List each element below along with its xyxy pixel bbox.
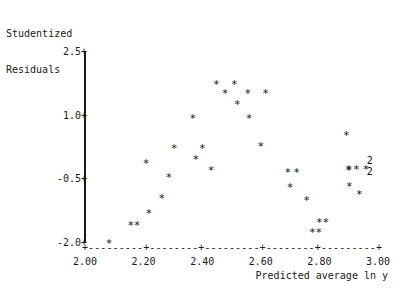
data-point: * — [165, 172, 172, 183]
x-axis-title: Predicted average ln y — [228, 270, 388, 281]
data-point: * — [287, 182, 294, 193]
y-axis-title-line-2: Residuals — [6, 64, 72, 76]
data-point: * — [134, 220, 141, 231]
data-point: * — [293, 167, 300, 178]
data-point: * — [189, 113, 196, 124]
data-point: * — [171, 143, 178, 154]
data-point: * — [142, 158, 149, 169]
x-tick-label: 3.00 — [353, 257, 403, 267]
y-tick-label: -0.5+ — [33, 174, 87, 184]
data-point: * — [356, 189, 363, 200]
data-point: * — [284, 167, 291, 178]
data-point: * — [231, 79, 238, 90]
data-point: * — [246, 113, 253, 124]
data-point-overplot: 2 — [366, 166, 373, 177]
data-point: * — [234, 99, 241, 110]
x-tick-label: 2.60 — [236, 257, 286, 267]
data-point-overplot: 2 — [366, 155, 373, 166]
data-point: * — [199, 143, 206, 154]
data-point: * — [353, 164, 360, 175]
x-tick-label: 2.00 — [60, 257, 110, 267]
data-point: * — [222, 88, 229, 99]
data-point: * — [343, 130, 350, 141]
residual-scatter-plot: Studentized Residuals 2.5+1.0+-0.5+-2.0+… — [0, 0, 417, 300]
y-tick-label: 1.0+ — [33, 111, 87, 121]
x-tick-label: 2.80 — [294, 257, 344, 267]
data-point: * — [213, 79, 220, 90]
data-point: * — [303, 195, 310, 206]
data-point: * — [315, 227, 322, 238]
y-tick-label: 2.5+ — [33, 47, 87, 57]
data-point: * — [192, 154, 199, 165]
data-point: * — [145, 208, 152, 219]
x-tick-label: 2.40 — [177, 257, 227, 267]
data-point: * — [262, 88, 269, 99]
data-point: * — [106, 238, 113, 249]
data-point: * — [244, 88, 251, 99]
data-point: * — [158, 193, 165, 204]
x-tick-label: 2.20 — [119, 257, 169, 267]
data-point: * — [207, 165, 214, 176]
x-axis-dashes: +---------+--------+---------+--------+-… — [82, 243, 387, 253]
y-tick-label: -2.0+ — [33, 238, 87, 248]
data-point: * — [346, 181, 353, 192]
y-axis-title-line-1: Studentized — [6, 28, 72, 40]
data-point: * — [257, 141, 264, 152]
data-point: * — [345, 165, 352, 176]
y-axis-line — [84, 52, 86, 243]
data-point: * — [322, 217, 329, 228]
